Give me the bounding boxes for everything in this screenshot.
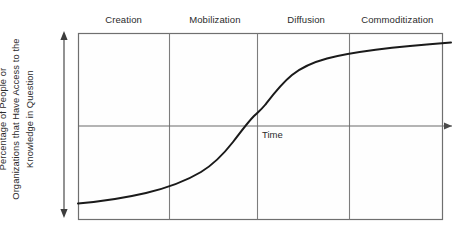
plot-canvas	[0, 0, 464, 238]
y-axis-arrowhead-top	[60, 31, 67, 40]
y-axis-arrowhead-bottom	[60, 209, 67, 218]
x-axis-label: Time	[262, 128, 283, 141]
chart-figure: Creation Mobilization Diffusion Commodit…	[0, 0, 464, 238]
x-axis-arrowhead	[444, 123, 452, 130]
